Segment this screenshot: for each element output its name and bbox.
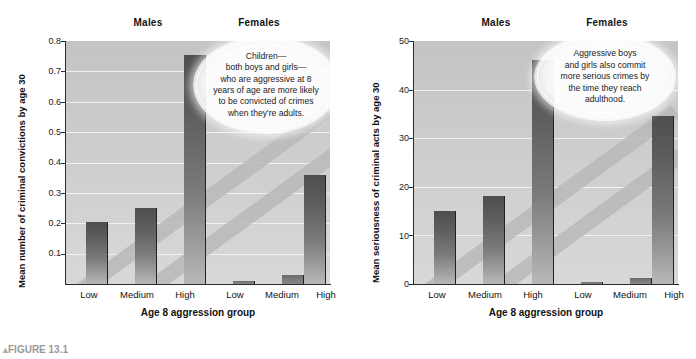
y-axis-line-right	[413, 41, 414, 285]
y-tick-label: 50	[381, 36, 409, 46]
chart-panel-criminal-convictions: Males Females Mean number of criminal co…	[0, 0, 348, 335]
y-tick-mark	[409, 138, 413, 139]
y-tick-mark	[61, 254, 65, 255]
group-heading-females-left: Females	[226, 17, 292, 28]
bar-males-low	[86, 222, 108, 284]
y-tick-mark	[61, 163, 65, 164]
y-axis-title-right: Mean seriousness of criminal acts by age…	[370, 82, 381, 283]
y-tick-mark	[409, 284, 413, 285]
chart-panel-criminal-seriousness: Males Females Mean seriousness of crimin…	[348, 0, 696, 335]
y-tick-mark	[409, 235, 413, 236]
y-axis-title-left: Mean number of criminal convictions by a…	[16, 74, 27, 288]
y-tick-label: 0	[381, 279, 409, 289]
y-tick-mark	[61, 223, 65, 224]
callout-bubble-right: Aggressive boys and girls also commit mo…	[534, 33, 676, 121]
bar-males-medium	[483, 196, 505, 284]
x-tick-label-males-low: Low	[415, 289, 459, 300]
x-tick-label-males-high: High	[511, 289, 555, 300]
y-tick-label: 0.2	[33, 218, 61, 228]
x-tick-label-females-medium: Medium	[606, 289, 654, 300]
group-heading-males-left: Males	[118, 17, 178, 28]
bar-females-high	[304, 175, 326, 284]
bar-females-high	[652, 116, 674, 284]
bar-males-medium	[135, 208, 157, 284]
x-axis-line-right	[413, 284, 679, 285]
caption-bar	[0, 335, 696, 359]
callout-bubble-left: Children— both boys and girls— who are a…	[193, 36, 339, 134]
y-tick-label: 30	[381, 133, 409, 143]
y-tick-mark	[61, 71, 65, 72]
y-tick-label: 0.7	[33, 66, 61, 76]
y-tick-mark	[61, 102, 65, 103]
y-tick-label: 0.8	[33, 36, 61, 46]
group-heading-females-right: Females	[574, 17, 640, 28]
x-tick-label-males-low: Low	[67, 289, 111, 300]
x-axis-title-right: Age 8 aggression group	[414, 307, 678, 318]
y-tick-mark	[61, 132, 65, 133]
x-axis-title-left: Age 8 aggression group	[66, 307, 330, 318]
y-tick-label: 0.5	[33, 127, 61, 137]
y-tick-mark	[61, 41, 65, 42]
y-axis-line-left	[65, 41, 66, 285]
bar-males-low	[434, 211, 456, 284]
y-tick-mark	[409, 90, 413, 91]
callout-text-left: Children— both boys and girls— who are a…	[201, 51, 331, 119]
y-tick-label: 20	[381, 182, 409, 192]
y-tick-mark	[409, 41, 413, 42]
y-tick-label: 0.1	[33, 248, 61, 258]
x-tick-label-females-high: High	[306, 289, 346, 300]
y-tick-label: 0.3	[33, 188, 61, 198]
y-tick-mark	[61, 193, 65, 194]
y-tick-label: 0.6	[33, 97, 61, 107]
bar-females-medium	[282, 275, 304, 284]
x-tick-label-females-high: High	[654, 289, 694, 300]
figure-caption: FIGURE 13.1	[8, 344, 68, 355]
x-tick-label-males-high: High	[163, 289, 207, 300]
y-tick-label: 0.4	[33, 157, 61, 167]
figure-root: Males Females Mean number of criminal co…	[0, 0, 696, 359]
y-tick-mark	[409, 187, 413, 188]
x-tick-label-females-low: Low	[213, 289, 257, 300]
x-tick-label-males-medium: Medium	[461, 289, 509, 300]
x-tick-label-females-medium: Medium	[258, 289, 306, 300]
group-heading-males-right: Males	[466, 17, 526, 28]
x-tick-label-males-medium: Medium	[113, 289, 161, 300]
x-axis-line-left	[65, 284, 331, 285]
y-tick-label: 10	[381, 231, 409, 241]
y-tick-label: 40	[381, 85, 409, 95]
x-tick-label-females-low: Low	[561, 289, 605, 300]
callout-text-right: Aggressive boys and girls also commit mo…	[549, 48, 662, 105]
